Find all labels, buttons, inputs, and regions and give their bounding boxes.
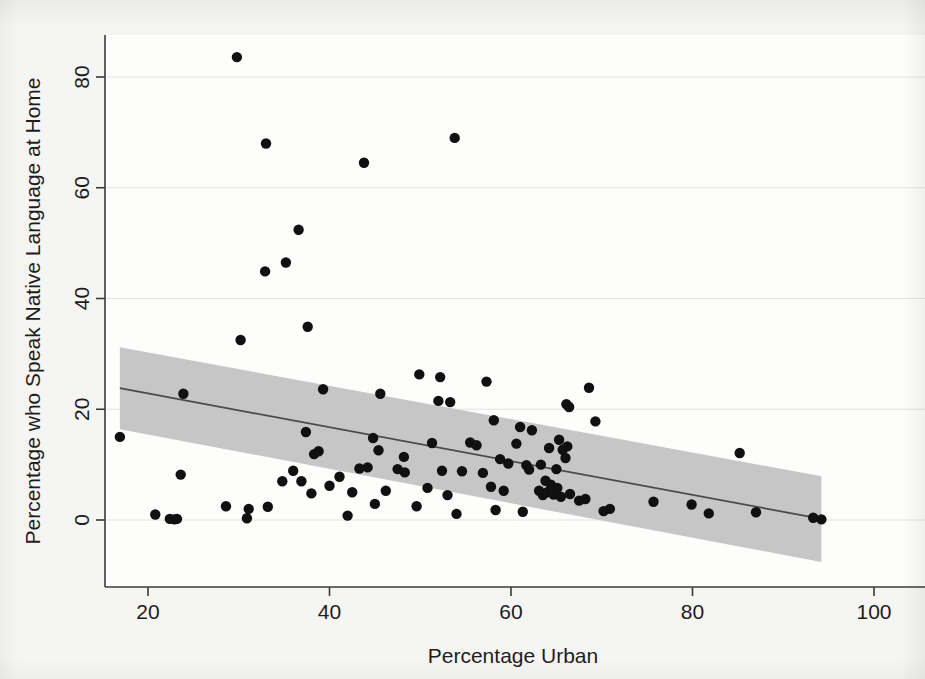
scatter-point	[324, 481, 334, 491]
scatter-point	[437, 466, 447, 476]
y-tick-label: 60	[70, 176, 93, 199]
y-tick-label: 20	[70, 398, 93, 421]
scatter-point	[518, 507, 528, 517]
x-tick-labels: 20406080100	[136, 600, 891, 623]
scatter-point	[375, 389, 385, 399]
scatter-point	[221, 501, 231, 511]
scatter-point	[590, 416, 600, 426]
scatter-point	[554, 435, 564, 445]
scatter-point	[293, 225, 303, 235]
scatter-point	[260, 266, 270, 276]
scatter-point	[544, 443, 554, 453]
chart-page: 20406080100 020406080 Percentage Urban P…	[0, 0, 925, 679]
scatter-point	[172, 514, 182, 524]
scatter-point	[536, 459, 546, 469]
scatter-point	[303, 322, 313, 332]
scatter-point	[478, 468, 488, 478]
scatter-point	[816, 514, 826, 524]
scatter-point	[427, 438, 437, 448]
scatter-point	[296, 476, 306, 486]
scatter-point	[400, 467, 410, 477]
scatter-point	[150, 509, 160, 519]
scatter-point	[381, 486, 391, 496]
scatter-point	[263, 502, 273, 512]
scatter-point	[399, 452, 409, 462]
scatter-point	[422, 483, 432, 493]
scatter-point	[115, 432, 125, 442]
y-axis-title: Percentage who Speak Native Language at …	[21, 78, 44, 545]
scatter-point	[542, 487, 552, 497]
scatter-point	[527, 425, 537, 435]
scatter-point	[232, 52, 242, 62]
y-tick-label: 40	[70, 287, 93, 310]
scatter-point	[342, 510, 352, 520]
scatter-point	[178, 389, 188, 399]
x-tick-label: 60	[499, 600, 522, 623]
x-tick-label: 40	[318, 600, 341, 623]
scatter-point	[362, 462, 372, 472]
scatter-point	[301, 427, 311, 437]
scatter-point	[261, 138, 271, 148]
scatter-point	[359, 158, 369, 168]
scatter-point	[433, 396, 443, 406]
x-axis-title: Percentage Urban	[428, 644, 598, 667]
x-tick-label: 80	[681, 600, 704, 623]
scatter-point	[735, 448, 745, 458]
scatter-point	[457, 466, 467, 476]
x-tick-label: 100	[856, 600, 891, 623]
scatter-point	[235, 335, 245, 345]
scatter-point	[556, 492, 566, 502]
scatter-point	[288, 466, 298, 476]
x-tick-label: 20	[136, 600, 159, 623]
scatter-point	[565, 489, 575, 499]
scatter-point	[580, 494, 590, 504]
scatter-point	[648, 497, 658, 507]
scatter-point	[481, 376, 491, 386]
scatter-point	[486, 482, 496, 492]
scatter-point	[515, 422, 525, 432]
scatter-point	[562, 441, 572, 451]
scatter-point	[309, 449, 319, 459]
scatter-point	[605, 504, 615, 514]
scatter-point	[560, 453, 570, 463]
scatter-point	[442, 490, 452, 500]
scatter-point	[445, 397, 455, 407]
scatter-point	[704, 508, 714, 518]
scatter-point	[435, 372, 445, 382]
scatter-point	[450, 133, 460, 143]
scatter-point	[411, 501, 421, 511]
scatter-point	[373, 445, 383, 455]
scatter-point	[277, 476, 287, 486]
y-tick-labels: 020406080	[70, 65, 93, 526]
scatter-point	[524, 464, 534, 474]
scatter-point	[499, 486, 509, 496]
scatter-point	[489, 415, 499, 425]
scatter-point	[306, 488, 316, 498]
scatter-point	[334, 472, 344, 482]
scatter-point	[511, 438, 521, 448]
scatter-point	[368, 433, 378, 443]
scatter-point	[414, 369, 424, 379]
scatter-point	[370, 499, 380, 509]
scatter-plot: 20406080100 020406080 Percentage Urban P…	[0, 0, 925, 679]
scatter-point	[244, 504, 254, 514]
scatter-point	[471, 440, 481, 450]
scatter-point	[686, 499, 696, 509]
scatter-point	[347, 487, 357, 497]
scatter-point	[503, 458, 513, 468]
scatter-point	[242, 513, 252, 523]
scatter-point	[281, 257, 291, 267]
y-tick-label: 80	[70, 65, 93, 88]
y-tick-label: 0	[70, 514, 93, 526]
scatter-point	[564, 402, 574, 412]
scatter-point	[318, 384, 328, 394]
scatter-point	[451, 509, 461, 519]
scatter-point	[584, 383, 594, 393]
scatter-point	[490, 505, 500, 515]
scatter-point	[751, 507, 761, 517]
scatter-point	[176, 469, 186, 479]
scatter-point	[551, 464, 561, 474]
